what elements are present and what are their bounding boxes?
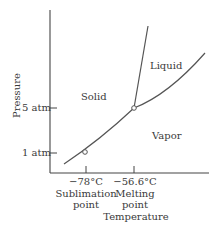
region-label-vapor: Vapor (152, 130, 181, 141)
region-label-liquid: Liquid (150, 60, 182, 71)
y-axis-label: Pressure (11, 73, 22, 118)
phase-diagram (0, 0, 220, 235)
sublimation-point-label-2: point (73, 199, 99, 210)
y-tick-label-1atm: 1 atm (22, 147, 51, 158)
melting-point-label-2: point (122, 199, 148, 210)
melting-curve (134, 26, 148, 108)
x-tick-label-sublimation: −78°C (69, 176, 103, 187)
melting-point-label-1: Melting (115, 188, 154, 199)
x-axis-label: Temperature (103, 211, 169, 222)
sublimation-curve (64, 108, 134, 164)
sublimation-point-label-1: Sublimation (55, 188, 116, 199)
sublimation-point-marker (83, 150, 88, 155)
x-tick-label-melting: −56.6°C (113, 176, 156, 187)
triple-point-marker (132, 106, 137, 111)
region-label-solid: Solid (81, 91, 107, 102)
y-tick-label-5atm: 5 atm (22, 102, 51, 113)
